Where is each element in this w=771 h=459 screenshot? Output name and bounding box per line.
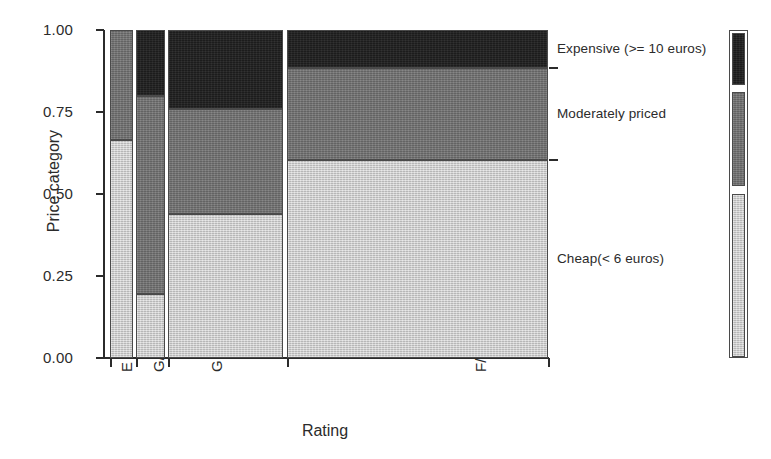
legend-label-moderate: Moderately priced xyxy=(557,106,666,121)
x-category-label-e: E xyxy=(118,362,135,372)
y-tick-mark xyxy=(96,111,104,113)
legend-swatch-expensive[interactable] xyxy=(732,33,745,85)
mosaic-column-f-g[interactable] xyxy=(287,30,548,358)
mosaic-tile-g-expensive[interactable] xyxy=(168,30,283,109)
mosaic-tile-f-g-cheap[interactable] xyxy=(287,160,548,358)
right-tick-mark xyxy=(549,159,558,161)
legend-label-expensive: Expensive (>= 10 euros) xyxy=(557,41,706,56)
mosaic-tile-g-e-cheap[interactable] xyxy=(136,294,165,358)
x-category-label-g: G xyxy=(208,360,225,372)
mosaic-tile-e-moderate[interactable] xyxy=(110,30,133,140)
mosaic-column-g[interactable] xyxy=(168,30,283,358)
mosaic-column-e[interactable] xyxy=(110,30,133,358)
legend-swatch-moderate[interactable] xyxy=(732,92,745,186)
y-tick-mark xyxy=(96,29,104,31)
x-tick-mark xyxy=(287,358,289,367)
x-tick-mark xyxy=(136,358,138,367)
y-tick-label: 1.00 xyxy=(13,22,73,37)
legend-swatch-cheap[interactable] xyxy=(732,194,745,357)
mosaic-tile-g-e-moderate[interactable] xyxy=(136,96,165,294)
right-tick-mark xyxy=(549,67,558,69)
y-axis-title: Price category xyxy=(45,101,63,261)
mosaic-column-g-e[interactable] xyxy=(136,30,165,358)
y-tick-mark xyxy=(96,275,104,277)
y-tick-mark xyxy=(96,193,104,195)
mosaic-tile-e-cheap[interactable] xyxy=(110,140,133,358)
mosaic-plot-figure: 1.000.750.500.250.00 EG/EGF/G Price cate… xyxy=(0,0,771,459)
y-tick-label: 0.50 xyxy=(13,186,73,201)
legend-key-bar xyxy=(729,30,748,358)
x-tick-mark xyxy=(548,358,550,367)
x-tick-mark xyxy=(168,358,170,367)
x-tick-mark xyxy=(110,358,112,367)
y-tick-label: 0.25 xyxy=(13,268,73,283)
y-tick-label: 0.00 xyxy=(13,350,73,365)
plot-area xyxy=(110,30,548,358)
y-tick-label: 0.75 xyxy=(13,104,73,119)
x-axis-title: Rating xyxy=(255,422,395,440)
mosaic-tile-g-cheap[interactable] xyxy=(168,214,283,358)
mosaic-tile-g-moderate[interactable] xyxy=(168,109,283,214)
mosaic-tile-f-g-expensive[interactable] xyxy=(287,30,548,68)
legend-label-cheap: Cheap(< 6 euros) xyxy=(557,251,664,266)
mosaic-tile-g-e-expensive[interactable] xyxy=(136,30,165,96)
mosaic-tile-f-g-moderate[interactable] xyxy=(287,68,548,160)
y-tick-mark xyxy=(96,357,104,359)
